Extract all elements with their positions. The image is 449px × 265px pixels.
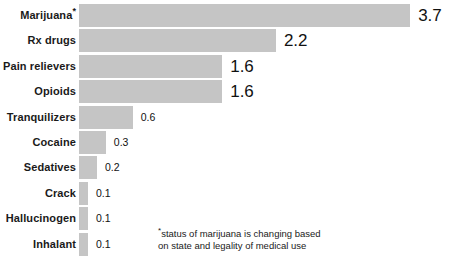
bar-value-label: 3.7 <box>418 4 442 27</box>
bar <box>79 80 222 103</box>
category-label: Crack <box>0 182 76 205</box>
category-label: Cocaine <box>0 131 76 154</box>
bar-value-label: 1.6 <box>230 55 254 78</box>
category-label: Tranquilizers <box>0 106 76 129</box>
bar-value-label: 0.1 <box>96 233 111 256</box>
chart-bar-row: Opioids1.6 <box>0 80 449 103</box>
bar <box>79 131 106 154</box>
chart-bar-row: Tranquilizers0.6 <box>0 106 449 129</box>
category-label: Marijuana* <box>0 4 76 27</box>
chart-bar-row: Hallucinogen0.1 <box>0 207 449 230</box>
category-label: Pain relievers <box>0 55 76 78</box>
footnote-line-1-text: status of marijuana is changing based <box>161 228 321 239</box>
footnote-line-2: on state and legality of medical use <box>158 240 358 252</box>
bar-value-label: 0.3 <box>114 131 129 154</box>
category-label-text: Tranquilizers <box>7 111 76 123</box>
bar-chart: Marijuana*3.7Rx drugs2.2Pain relievers1.… <box>0 0 449 265</box>
category-label-text: Cocaine <box>33 136 77 148</box>
category-label: Sedatives <box>0 156 76 179</box>
bar-value-label: 0.2 <box>105 156 120 179</box>
category-label-text: Opioids <box>34 85 76 97</box>
category-label-text: Marijuana <box>20 9 72 21</box>
chart-bar-row: Marijuana*3.7 <box>0 4 449 27</box>
bar <box>79 233 88 256</box>
category-label-text: Crack <box>45 187 76 199</box>
category-label: Rx drugs <box>0 29 76 52</box>
bar-value-label: 2.2 <box>284 29 308 52</box>
chart-bar-row: Crack0.1 <box>0 182 449 205</box>
bar <box>79 29 276 52</box>
bar <box>79 55 222 78</box>
category-label: Hallucinogen <box>0 207 76 230</box>
bar <box>79 182 88 205</box>
category-label: Inhalant <box>0 233 76 256</box>
chart-footnote: *status of marijuana is changing based o… <box>158 228 358 252</box>
asterisk-marker: * <box>72 6 76 16</box>
bar-value-label: 1.6 <box>230 80 254 103</box>
bar-value-label: 0.1 <box>96 182 111 205</box>
chart-bar-row: Rx drugs2.2 <box>0 29 449 52</box>
bar <box>79 156 97 179</box>
bar <box>79 4 410 27</box>
bar-value-label: 0.1 <box>96 207 111 230</box>
category-label-text: Sedatives <box>24 161 76 173</box>
category-label-text: Pain relievers <box>3 60 76 72</box>
bar-value-label: 0.6 <box>141 106 156 129</box>
bar <box>79 106 133 129</box>
category-label: Opioids <box>0 80 76 103</box>
category-label-text: Rx drugs <box>28 34 76 46</box>
category-label-text: Hallucinogen <box>6 212 76 224</box>
footnote-line-1: *status of marijuana is changing based <box>158 228 358 240</box>
chart-bar-row: Pain relievers1.6 <box>0 55 449 78</box>
chart-bar-row: Cocaine0.3 <box>0 131 449 154</box>
category-label-text: Inhalant <box>33 238 76 250</box>
chart-bar-row: Sedatives0.2 <box>0 156 449 179</box>
bar <box>79 207 88 230</box>
